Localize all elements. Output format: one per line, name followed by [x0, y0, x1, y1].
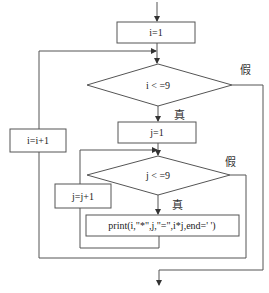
inc-i-label: i=i+1 [27, 135, 49, 146]
init-i-node: i=1 [117, 22, 195, 43]
cond-i-label: i < =9 [146, 80, 170, 91]
init-j-node: j=1 [118, 122, 196, 143]
cond-i-false-label: 假 [240, 63, 251, 77]
init-i-label: i=1 [149, 27, 162, 38]
inc-j-label: j=j+1 [71, 191, 94, 202]
init-j-label: j=1 [149, 127, 163, 138]
inc-i-node: i=i+1 [10, 129, 66, 152]
cond-i-true-label: 真 [174, 108, 185, 122]
cond-j-true-label: 真 [172, 198, 183, 212]
print-label: print(i,"*",j,"=",i*j,end=' ') [108, 220, 215, 232]
cond-j-false-label: 假 [225, 155, 236, 169]
cond-j-label: j < =9 [145, 170, 170, 181]
flowchart-canvas: i=1 i < =9 假 真 j=1 j < =9 假 真 j=j+1 [0, 0, 269, 293]
cond-i-node: i < =9 [87, 64, 232, 106]
inc-j-node: j=j+1 [55, 184, 111, 208]
print-node: print(i,"*",j,"=",i*j,end=' ') [86, 215, 239, 236]
